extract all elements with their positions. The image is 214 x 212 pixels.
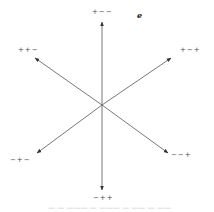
arrow-upper-left — [35, 58, 102, 105]
arrow-upper-right — [102, 58, 171, 105]
label-bottom: −++ — [93, 194, 114, 202]
label-lower-right: −−+ — [171, 151, 192, 159]
label-lower-left: −+− — [10, 156, 31, 164]
label-upper-left: ++− — [18, 46, 39, 54]
arrow-lower-right — [102, 105, 168, 153]
arrow-lower-left — [37, 105, 102, 153]
label-top: +−− — [92, 8, 113, 16]
hexagonal-weight-diagram — [0, 0, 214, 212]
label-e: e — [137, 10, 142, 20]
label-upper-right: +−+ — [180, 46, 201, 54]
caption-text-cutoff: — — ——— — ——— — —— — —— — [48, 204, 214, 212]
